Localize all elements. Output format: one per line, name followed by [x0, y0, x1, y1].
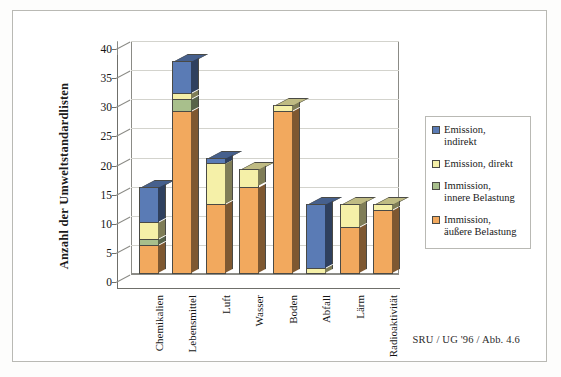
gridline-20 — [131, 158, 399, 159]
bar-segment — [139, 245, 159, 274]
bar-segment — [172, 99, 192, 111]
x-tick-label: Chemikalien — [153, 295, 165, 351]
y-tick-mark — [112, 49, 116, 50]
legend-item-immission_aeussere: Immission,äußere Belastung — [432, 214, 524, 238]
legend-swatch-immission_innere — [432, 182, 440, 190]
bar-luft[interactable] — [206, 158, 226, 274]
bar-segment — [373, 210, 393, 274]
gridline-35 — [131, 70, 399, 71]
y-tick-label: 40 — [90, 43, 112, 55]
y-tick-label: 30 — [90, 101, 112, 113]
y-tick-mark — [112, 136, 116, 137]
legend-item-emission_direkt: Emission, direkt — [432, 158, 524, 170]
legend-label: Immission,äußere Belastung — [444, 214, 517, 238]
bar-segment — [206, 204, 226, 274]
legend-swatch-emission_direkt — [432, 160, 440, 168]
x-tick-label: Radioaktivität — [387, 295, 399, 357]
y-tick-label: 0 — [90, 276, 112, 288]
x-tick-label: Boden — [287, 295, 299, 324]
bar-radioaktivitt[interactable] — [373, 204, 393, 274]
y-tick-mark — [112, 195, 116, 196]
bar-segment — [172, 111, 192, 274]
figure-container: Anzahl der Umweltstandardlisten 05101520… — [0, 0, 561, 377]
gridline-30 — [131, 99, 399, 100]
source-note: SRU / UG '96 / Abb. 4.6 — [413, 334, 520, 345]
y-tick-mark — [112, 166, 116, 167]
x-tick-label: Luft — [220, 295, 232, 314]
legend-item-emission_indirekt: Emission,indirekt — [432, 124, 524, 148]
bar-abfall[interactable] — [306, 204, 326, 274]
gridline-25 — [131, 128, 399, 129]
gridline-0 — [131, 274, 399, 275]
bar-segment — [172, 61, 192, 93]
y-tick-mark — [112, 253, 116, 254]
y-tick-label: 25 — [90, 130, 112, 142]
x-tick-label: Abfall — [320, 295, 332, 323]
bar-segment — [306, 204, 326, 268]
x-tick-label: Wasser — [253, 295, 265, 327]
gridline-40 — [131, 41, 399, 42]
bar-boden[interactable] — [273, 105, 293, 274]
bar-segment — [206, 163, 226, 204]
y-tick-mark — [112, 282, 116, 283]
bar-segment — [239, 187, 259, 274]
legend-label: Emission, direkt — [444, 158, 513, 170]
legend-item-immission_innere: Immission,innere Belastung — [432, 180, 524, 204]
y-tick-label: 35 — [90, 72, 112, 84]
bar-segment — [139, 222, 159, 239]
bar-wasser[interactable] — [239, 169, 259, 274]
bar-lrm[interactable] — [340, 204, 360, 274]
bar-lebensmittel[interactable] — [172, 61, 192, 274]
y-tick-mark — [112, 107, 116, 108]
bar-segment — [139, 187, 159, 222]
bar-segment — [340, 204, 360, 227]
y-axis-title: Anzahl der Umweltstandardlisten — [57, 71, 72, 281]
bar-segment — [239, 169, 259, 186]
legend-swatch-emission_indirekt — [432, 126, 440, 134]
y-tick-mark — [112, 224, 116, 225]
legend-label: Emission,indirekt — [444, 124, 486, 148]
bar-segment — [306, 268, 326, 274]
y-tick-mark — [112, 78, 116, 79]
y-tick-label: 5 — [90, 247, 112, 259]
bar-chemikalien[interactable] — [139, 187, 159, 274]
figure-frame: Anzahl der Umweltstandardlisten 05101520… — [12, 10, 547, 362]
plot-area: 0510152025303540 ChemikalienLebensmittel… — [109, 33, 409, 288]
bar-segment — [273, 111, 293, 274]
x-axis-line — [117, 288, 400, 289]
x-tick-label: Lebensmittel — [186, 295, 198, 352]
x-tick-label: Lärm — [354, 295, 366, 319]
bar-segment — [340, 227, 360, 274]
y-tick-label: 20 — [90, 160, 112, 172]
y-tick-label: 10 — [90, 218, 112, 230]
y-tick-label: 15 — [90, 189, 112, 201]
legend-label: Immission,innere Belastung — [444, 180, 515, 204]
legend-swatch-immission_aeussere — [432, 216, 440, 224]
chart-legend: Emission,indirektEmission, direktImmissi… — [425, 116, 531, 249]
